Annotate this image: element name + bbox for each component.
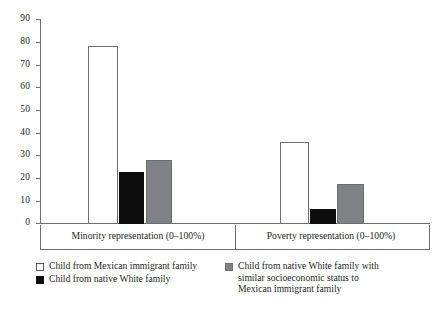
legend-label-mexican-immigrant: Child from Mexican immigrant family	[49, 260, 197, 272]
legend-swatch-gray-icon	[225, 263, 233, 271]
category-axis-band: Minority representation (0–100%) Poverty…	[40, 224, 430, 250]
bars-layer	[0, 0, 432, 224]
bar-minority-mexican-immigrant	[88, 46, 118, 224]
legend-entry-mexican-immigrant: Child from Mexican immigrant family	[36, 260, 226, 272]
category-divider-middle	[235, 225, 236, 249]
legend-label-native-white: Child from native White family	[49, 273, 170, 285]
legend-swatch-black-icon	[36, 276, 44, 284]
bar-minority-native-white	[119, 172, 144, 224]
bar-poverty-native-white	[310, 209, 336, 224]
legend-entry-native-white-ses: Child from native White family with simi…	[225, 260, 425, 295]
legend-entry-native-white: Child from native White family	[36, 273, 226, 285]
caption-remnant	[8, 306, 218, 314]
bar-poverty-mexican-immigrant	[280, 142, 309, 224]
bar-minority-native-white-ses	[146, 160, 172, 224]
category-divider-left	[40, 225, 41, 249]
bar-poverty-native-white-ses	[337, 184, 364, 224]
category-band-underline	[40, 249, 430, 250]
category-divider-right	[429, 225, 430, 249]
category-label-minority: Minority representation (0–100%)	[50, 230, 226, 242]
legend-label-native-white-ses: Child from native White family with simi…	[238, 260, 379, 295]
legend-swatch-white-icon	[36, 263, 44, 271]
chart-legend: Child from Mexican immigrant family Chil…	[0, 256, 432, 306]
category-label-poverty: Poverty representation (0–100%)	[243, 230, 419, 242]
plot-area: 90 80 70 60 50 40 30 20 10 0	[0, 0, 432, 250]
bar-chart-figure: 90 80 70 60 50 40 30 20 10 0	[0, 0, 432, 314]
